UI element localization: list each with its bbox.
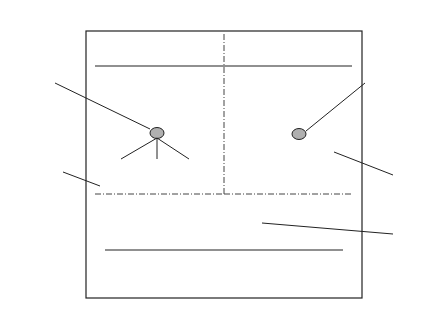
diagram-lines	[0, 0, 445, 313]
